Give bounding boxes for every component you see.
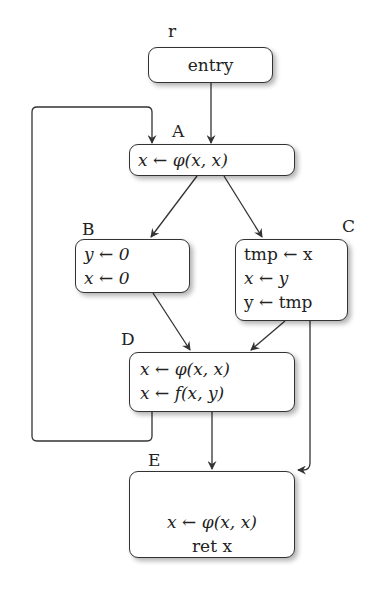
node-e: x ← φ(x, x) ret x (129, 471, 295, 558)
node-label-b: B (82, 220, 95, 238)
edge-a-to-b (151, 176, 197, 237)
edge-a-to-c (224, 176, 262, 237)
node-b-line-2: x ← 0 (84, 266, 189, 290)
node-entry-text: entry (149, 53, 272, 77)
node-label-a: A (172, 122, 184, 140)
node-b-line-1: y ← 0 (84, 242, 189, 266)
node-d-line-1: x ← φ(x, x) (140, 357, 294, 381)
node-label-e: E (148, 451, 160, 469)
edge-c-to-e (298, 321, 310, 470)
node-c: tmp ← x x ← y y ← tmp (235, 239, 348, 321)
node-label-r: r (168, 22, 176, 40)
node-c-line-1: tmp ← x (244, 242, 347, 266)
node-d: x ← φ(x, x) x ← f(x, y) (129, 352, 295, 412)
node-c-line-3: y ← tmp (244, 290, 347, 314)
edge-b-to-d (153, 293, 190, 350)
edge-c-to-d (251, 321, 285, 350)
node-b: y ← 0 x ← 0 (75, 239, 190, 293)
node-label-c: C (342, 217, 355, 235)
node-d-line-2: x ← f(x, y) (140, 381, 294, 405)
node-a: x ← φ(x, x) (129, 144, 295, 176)
node-a-line-1: x ← φ(x, x) (138, 148, 294, 172)
node-c-line-2: x ← y (244, 266, 347, 290)
node-label-d: D (121, 330, 135, 348)
node-e-line-2: ret x (130, 534, 294, 558)
node-entry: entry (148, 47, 273, 83)
node-e-line-1: x ← φ(x, x) (130, 510, 294, 534)
